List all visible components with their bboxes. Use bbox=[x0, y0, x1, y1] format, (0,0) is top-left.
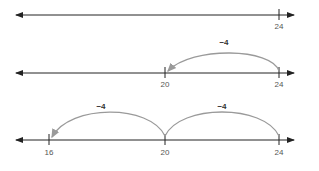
number-line-2: 20 24 −4 bbox=[16, 38, 294, 89]
tick-label: 24 bbox=[275, 148, 284, 157]
tick-label: 24 bbox=[275, 22, 284, 31]
tick-label: 16 bbox=[45, 148, 54, 157]
jump-label: −4 bbox=[219, 38, 229, 47]
jump-arc bbox=[168, 53, 279, 71]
tick-label: 20 bbox=[161, 148, 170, 157]
number-line-1: 24 bbox=[16, 9, 294, 31]
jump-label: −4 bbox=[96, 102, 106, 111]
jump-arc bbox=[165, 112, 279, 136]
number-line-diagram: 24 20 24 −4 16 20 24 −4 −4 bbox=[0, 0, 319, 171]
tick-label: 24 bbox=[275, 80, 284, 89]
number-line-3: 16 20 24 −4 −4 bbox=[16, 102, 294, 157]
jump-arc bbox=[52, 112, 165, 137]
tick-label: 20 bbox=[161, 80, 170, 89]
jump-label: −4 bbox=[217, 102, 227, 111]
